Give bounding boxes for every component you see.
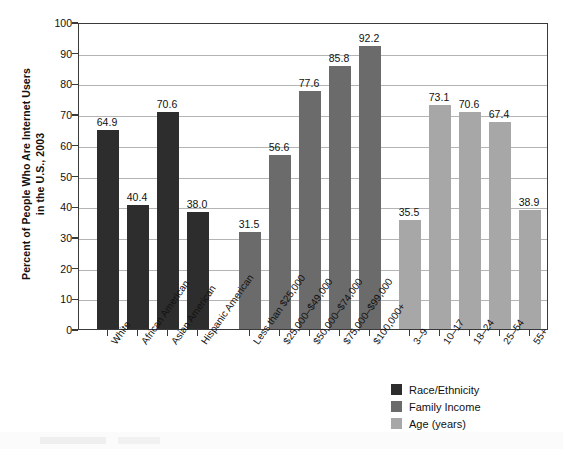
legend-swatch-race-ethnicity bbox=[391, 384, 402, 395]
y-tick-label: 90 bbox=[44, 49, 72, 60]
y-tick-label: 20 bbox=[44, 264, 72, 275]
legend: Race/Ethnicity Family Income Age (years) bbox=[391, 381, 481, 432]
bar-value-label: 70.6 bbox=[147, 99, 187, 110]
x-tick-mark bbox=[529, 330, 530, 336]
legend-item[interactable]: Race/Ethnicity bbox=[391, 381, 481, 398]
bar[interactable] bbox=[519, 210, 541, 329]
x-tick-mark bbox=[369, 330, 370, 336]
y-axis-title: Percent of People Who Are Internet Users… bbox=[19, 24, 47, 324]
legend-label-race-ethnicity: Race/Ethnicity bbox=[409, 384, 479, 396]
y-tick-label: 50 bbox=[44, 172, 72, 183]
bar-value-label: 35.5 bbox=[389, 207, 429, 218]
legend-swatch-age-years bbox=[391, 418, 402, 429]
x-tick-mark bbox=[137, 330, 138, 336]
gridline bbox=[79, 55, 547, 56]
y-tick-label: 30 bbox=[44, 233, 72, 244]
y-tick-label: 80 bbox=[44, 79, 72, 90]
bar-value-label: 67.4 bbox=[479, 109, 519, 120]
bar-value-label: 92.2 bbox=[349, 33, 389, 44]
bar[interactable] bbox=[429, 105, 451, 329]
x-tick-mark bbox=[249, 330, 250, 336]
bar-value-label: 38.9 bbox=[509, 197, 549, 208]
legend-item[interactable]: Family Income bbox=[391, 398, 481, 415]
x-tick-mark bbox=[167, 330, 168, 336]
bar-value-label: 64.9 bbox=[87, 117, 127, 128]
bar[interactable] bbox=[127, 205, 149, 329]
x-tick-mark bbox=[107, 330, 108, 336]
x-tick-mark bbox=[409, 330, 410, 336]
x-tick-mark bbox=[439, 330, 440, 336]
x-tick-mark bbox=[339, 330, 340, 336]
bar-value-label: 31.5 bbox=[229, 219, 269, 230]
bar[interactable] bbox=[97, 130, 119, 329]
y-tick-label: 10 bbox=[44, 294, 72, 305]
legend-item[interactable]: Age (years) bbox=[391, 415, 481, 432]
x-tick-mark bbox=[279, 330, 280, 336]
bar[interactable] bbox=[489, 122, 511, 329]
x-tick-mark bbox=[499, 330, 500, 336]
legend-swatch-family-income bbox=[391, 401, 402, 412]
legend-label-age-years: Age (years) bbox=[409, 418, 466, 430]
y-tick-label: 70 bbox=[44, 110, 72, 121]
y-tick-label: 60 bbox=[44, 141, 72, 152]
x-tick-mark bbox=[197, 330, 198, 336]
x-tick-mark bbox=[309, 330, 310, 336]
legend-label-family-income: Family Income bbox=[409, 401, 481, 413]
scan-artifact-smudge bbox=[40, 437, 106, 444]
bar-value-label: 38.0 bbox=[177, 199, 217, 210]
bar-value-label: 40.4 bbox=[117, 192, 157, 203]
bar-value-label: 56.6 bbox=[259, 142, 299, 153]
plot-area bbox=[78, 23, 548, 330]
y-tick-label: 0 bbox=[44, 325, 72, 336]
bar-chart: Percent of People Who Are Internet Users… bbox=[0, 0, 563, 449]
y-tick-label: 40 bbox=[44, 202, 72, 213]
y-tick-label: 100 bbox=[44, 18, 72, 29]
bar[interactable] bbox=[459, 112, 481, 329]
bar-value-label: 85.8 bbox=[319, 53, 359, 64]
scan-artifact-smudge bbox=[118, 437, 160, 444]
bar-value-label: 77.6 bbox=[289, 78, 329, 89]
x-tick-mark bbox=[469, 330, 470, 336]
